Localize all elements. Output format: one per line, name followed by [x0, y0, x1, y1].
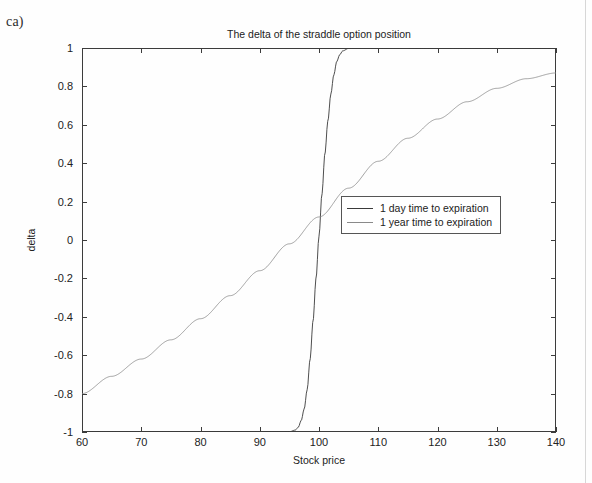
x-tick	[378, 427, 379, 432]
delta-straddle-chart: The delta of the straddle option positio…	[82, 48, 556, 432]
x-tick	[556, 427, 557, 432]
x-tick-top	[201, 48, 202, 53]
y-tick-right	[551, 163, 556, 164]
x-tick	[201, 427, 202, 432]
y-tick-label: -0.4	[54, 311, 73, 323]
y-tick	[82, 163, 87, 164]
legend-line-swatch-1day	[347, 208, 373, 209]
y-tick-label: 0.2	[58, 196, 73, 208]
y-tick-label: 0.6	[58, 119, 73, 131]
legend-line-swatch-1year	[347, 222, 373, 223]
y-tick-right	[551, 355, 556, 356]
x-tick-top	[378, 48, 379, 53]
x-tick-label: 140	[547, 436, 565, 448]
y-tick	[82, 86, 87, 87]
y-tick-right	[551, 432, 556, 433]
x-tick	[438, 427, 439, 432]
y-tick	[82, 240, 87, 241]
y-tick-right	[551, 394, 556, 395]
y-tick-right	[551, 278, 556, 279]
x-tick	[141, 427, 142, 432]
y-tick-right	[551, 86, 556, 87]
y-tick	[82, 202, 87, 203]
y-tick-label: -0.2	[54, 272, 73, 284]
y-tick-label: 1	[67, 42, 73, 54]
y-tick	[82, 48, 87, 49]
x-tick-label: 100	[310, 436, 328, 448]
chart-data-layer	[82, 48, 556, 432]
y-tick	[82, 125, 87, 126]
y-tick-right	[551, 125, 556, 126]
figure-label: ca)	[6, 14, 24, 30]
chart-title: The delta of the straddle option positio…	[82, 28, 556, 40]
scan-page-edge	[585, 0, 586, 483]
x-tick-top	[438, 48, 439, 53]
x-tick	[319, 427, 320, 432]
x-tick-top	[556, 48, 557, 53]
x-tick-label: 90	[254, 436, 266, 448]
x-tick-label: 130	[488, 436, 506, 448]
x-tick	[260, 427, 261, 432]
y-tick-label: -0.6	[54, 349, 73, 361]
x-tick-label: 70	[135, 436, 147, 448]
legend-item-1year: 1 year time to expiration	[347, 215, 492, 229]
x-tick-top	[497, 48, 498, 53]
y-tick-label: 0.4	[58, 157, 73, 169]
y-tick-label: 0	[67, 234, 73, 246]
x-tick-top	[319, 48, 320, 53]
series-line-1day	[82, 48, 556, 432]
x-tick-label: 80	[194, 436, 206, 448]
y-tick	[82, 317, 87, 318]
x-tick-top	[260, 48, 261, 53]
y-tick-right	[551, 48, 556, 49]
y-tick-label: -1	[63, 426, 73, 438]
y-tick-right	[551, 202, 556, 203]
x-tick-label: 120	[428, 436, 446, 448]
y-tick-right	[551, 240, 556, 241]
y-tick-right	[551, 317, 556, 318]
y-tick-label: 0.8	[58, 80, 73, 92]
y-tick	[82, 278, 87, 279]
legend-label-1day: 1 day time to expiration	[380, 201, 489, 215]
page-canvas: ca) The delta of the straddle option pos…	[0, 0, 592, 483]
x-tick-label: 110	[369, 436, 387, 448]
x-tick-top	[141, 48, 142, 53]
legend-item-1day: 1 day time to expiration	[347, 201, 492, 215]
x-tick-label: 60	[76, 436, 88, 448]
y-axis-title: delta	[25, 229, 37, 252]
chart-legend: 1 day time to expiration 1 year time to …	[341, 196, 501, 234]
y-tick-label: -0.8	[54, 388, 73, 400]
y-tick	[82, 394, 87, 395]
y-tick	[82, 432, 87, 433]
x-axis-title: Stock price	[82, 454, 556, 466]
x-tick	[497, 427, 498, 432]
legend-label-1year: 1 year time to expiration	[380, 215, 492, 229]
y-tick	[82, 355, 87, 356]
